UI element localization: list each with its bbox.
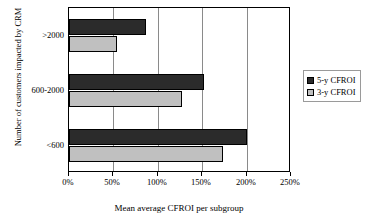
y-axis-tick-labels: >2000600-2000<600 [0, 7, 64, 172]
x-axis-tick-label: 250% [270, 177, 310, 187]
x-axis-tick-mark [201, 172, 202, 176]
bar-s3y [69, 91, 182, 107]
x-axis-title: Mean average CFROI per subgroup [68, 203, 290, 214]
bar-s5y [69, 74, 204, 90]
x-axis-tick-mark [290, 172, 291, 176]
x-axis-tick-label: 100% [137, 177, 177, 187]
bar-group [69, 63, 289, 118]
bar-chart: Number of customers impacted by CRM >200… [0, 0, 369, 219]
legend-swatch-icon [307, 89, 314, 96]
bar-s3y [69, 36, 117, 52]
x-axis-tick-mark [157, 172, 158, 176]
x-axis-ticks: 0%50%100%150%200%250% [68, 172, 290, 194]
x-axis-tick-label: 150% [181, 177, 221, 187]
bar-s3y [69, 146, 223, 162]
y-axis-tick-label: <600 [4, 140, 64, 150]
legend-label: 3-y CFROI [317, 87, 356, 97]
bar-s5y [69, 19, 146, 35]
x-axis-tick-label: 200% [226, 177, 266, 187]
chart-legend: 5-y CFROI3-y CFROI [303, 70, 361, 102]
bar-group [69, 118, 289, 173]
bar-group [69, 8, 289, 63]
x-axis-tick-label: 50% [92, 177, 132, 187]
legend-label: 5-y CFROI [317, 75, 356, 85]
legend-item: 3-y CFROI [307, 86, 356, 98]
legend-item: 5-y CFROI [307, 74, 356, 86]
plot-area [68, 7, 290, 172]
x-axis-tick-mark [112, 172, 113, 176]
x-axis-tick-mark [68, 172, 69, 176]
y-axis-tick-label: 600-2000 [4, 85, 64, 95]
x-axis-tick-label: 0% [48, 177, 88, 187]
y-axis-tick-label: >2000 [4, 30, 64, 40]
bar-s5y [69, 129, 247, 145]
x-axis-tick-mark [246, 172, 247, 176]
legend-swatch-icon [307, 77, 314, 84]
